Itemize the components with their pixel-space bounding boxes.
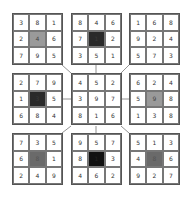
cell[interactable]: 5 <box>88 74 104 91</box>
cell[interactable]: 4 <box>29 167 45 184</box>
cell[interactable]: 2 <box>105 167 121 184</box>
cell[interactable]: 6 <box>163 151 179 168</box>
cell[interactable]: 7 <box>13 134 29 151</box>
cell[interactable]: 3 <box>163 47 179 64</box>
cell[interactable]: 3 <box>72 47 88 64</box>
cell[interactable]: 2 <box>13 167 29 184</box>
cell[interactable]: 2 <box>105 74 121 91</box>
cell[interactable]: 1 <box>13 91 29 108</box>
cell[interactable]: 2 <box>13 31 29 48</box>
cell[interactable]: 4 <box>163 31 179 48</box>
cell[interactable]: 5 <box>46 47 62 64</box>
cell-center[interactable]: 4 <box>29 31 45 48</box>
block-middle-left: 2 7 9 1 3 5 6 8 4 <box>12 73 63 125</box>
cell[interactable]: 8 <box>29 107 45 124</box>
puzzle-board: 3 8 1 2 4 6 7 9 5 8 4 6 7 1 2 3 5 1 1 6 … <box>0 0 190 200</box>
cell[interactable]: 8 <box>72 107 88 124</box>
cell[interactable]: 4 <box>72 74 88 91</box>
cell[interactable]: 8 <box>72 151 88 168</box>
block-top-middle: 8 4 6 7 1 2 3 5 1 <box>71 13 122 65</box>
cell[interactable]: 2 <box>146 167 162 184</box>
cell[interactable]: 9 <box>29 47 45 64</box>
cell[interactable]: 8 <box>163 91 179 108</box>
cell[interactable]: 4 <box>130 151 146 168</box>
cell-center[interactable]: 9 <box>146 91 162 108</box>
cell[interactable]: 9 <box>46 167 62 184</box>
block-bottom-left: 7 3 5 6 8 1 2 4 9 <box>12 133 63 185</box>
cell[interactable]: 7 <box>105 134 121 151</box>
cell[interactable]: 4 <box>72 167 88 184</box>
cell[interactable]: 4 <box>88 14 104 31</box>
block-bottom-middle: 9 5 7 8 1 3 4 6 2 <box>71 133 122 185</box>
cell-center[interactable]: 1 <box>88 31 104 48</box>
cell[interactable]: 1 <box>88 107 104 124</box>
cell[interactable]: 5 <box>130 91 146 108</box>
cell[interactable]: 5 <box>88 134 104 151</box>
cell[interactable]: 3 <box>163 134 179 151</box>
cell[interactable]: 7 <box>29 74 45 91</box>
cell[interactable]: 6 <box>13 151 29 168</box>
cell[interactable]: 7 <box>146 47 162 64</box>
block-top-left: 3 8 1 2 4 6 7 9 5 <box>12 13 63 65</box>
cell[interactable]: 7 <box>72 31 88 48</box>
cell[interactable]: 3 <box>146 107 162 124</box>
block-center: 4 5 2 3 9 7 8 1 6 <box>71 73 122 125</box>
cell[interactable]: 8 <box>72 14 88 31</box>
cell[interactable]: 6 <box>105 107 121 124</box>
cell-center[interactable]: 1 <box>88 151 104 168</box>
cell[interactable]: 1 <box>46 151 62 168</box>
cell[interactable]: 5 <box>88 47 104 64</box>
cell[interactable]: 4 <box>163 74 179 91</box>
cell[interactable]: 2 <box>146 74 162 91</box>
cell[interactable]: 3 <box>29 134 45 151</box>
cell[interactable]: 6 <box>130 74 146 91</box>
cell[interactable]: 7 <box>105 91 121 108</box>
cell[interactable]: 9 <box>72 134 88 151</box>
cell[interactable]: 7 <box>13 47 29 64</box>
cell[interactable]: 6 <box>105 14 121 31</box>
cell[interactable]: 9 <box>46 74 62 91</box>
cell[interactable]: 6 <box>146 14 162 31</box>
cell[interactable]: 9 <box>130 167 146 184</box>
cell[interactable]: 5 <box>130 47 146 64</box>
cell[interactable]: 3 <box>13 14 29 31</box>
cell[interactable]: 5 <box>130 134 146 151</box>
cell[interactable]: 2 <box>13 74 29 91</box>
block-top-right: 1 6 8 9 2 4 5 7 3 <box>129 13 180 65</box>
block-middle-right: 6 2 4 5 9 8 1 3 8 <box>129 73 180 125</box>
cell[interactable]: 6 <box>46 31 62 48</box>
cell[interactable]: 1 <box>105 47 121 64</box>
cell[interactable]: 1 <box>130 107 146 124</box>
cell[interactable]: 7 <box>163 167 179 184</box>
cell-center[interactable]: 8 <box>29 151 45 168</box>
cell-center[interactable]: 8 <box>146 151 162 168</box>
cell-center[interactable]: 3 <box>29 91 45 108</box>
block-bottom-right: 5 1 3 4 8 6 9 2 7 <box>129 133 180 185</box>
cell[interactable]: 9 <box>130 31 146 48</box>
cell[interactable]: 8 <box>29 14 45 31</box>
cell[interactable]: 3 <box>72 91 88 108</box>
cell[interactable]: 1 <box>130 14 146 31</box>
cell-center[interactable]: 9 <box>88 91 104 108</box>
cell[interactable]: 1 <box>146 134 162 151</box>
cell[interactable]: 8 <box>163 107 179 124</box>
cell[interactable]: 6 <box>88 167 104 184</box>
cell[interactable]: 4 <box>46 107 62 124</box>
cell[interactable]: 2 <box>105 31 121 48</box>
cell[interactable]: 8 <box>163 14 179 31</box>
cell[interactable]: 1 <box>46 14 62 31</box>
cell[interactable]: 5 <box>46 134 62 151</box>
cell[interactable]: 6 <box>13 107 29 124</box>
cell[interactable]: 3 <box>105 151 121 168</box>
cell-center[interactable]: 2 <box>146 31 162 48</box>
cell[interactable]: 5 <box>46 91 62 108</box>
